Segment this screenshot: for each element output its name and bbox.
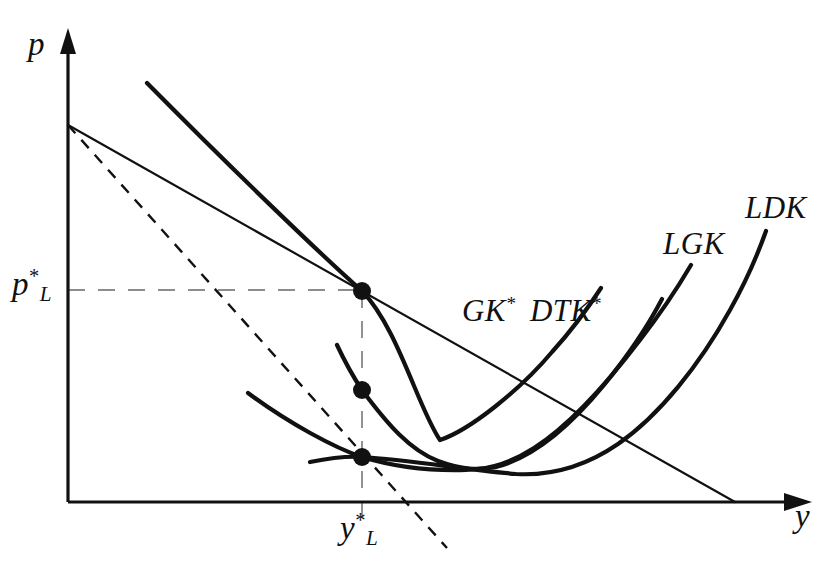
- equilibrium-points-group: [353, 282, 371, 466]
- curve-label-gk-star: GK*: [462, 295, 516, 326]
- quantity-equilibrium-label: y*L: [340, 512, 378, 545]
- price-axis-label: p: [28, 28, 45, 61]
- axes-group: [60, 28, 812, 511]
- price-axis-arrow-icon: [60, 28, 76, 54]
- quantity-axis-label: y: [795, 500, 810, 533]
- demand-equilibrium-point: [353, 282, 371, 300]
- diagram-svg: [0, 0, 835, 570]
- demand-curve: [68, 125, 735, 502]
- price-equilibrium-label: p*L: [12, 268, 51, 301]
- curve-label-dtk-star: DTK*: [530, 295, 602, 326]
- marginal-cost-point: [353, 381, 371, 399]
- gk-star-curve: [147, 83, 601, 440]
- economics-diagram-canvas: p y p*L y*L GK* DTK* LGK LDK: [0, 0, 835, 570]
- curve-label-ldk: LDK: [745, 192, 807, 223]
- curve-label-lgk: LGK: [663, 228, 725, 259]
- guide-lines: [68, 290, 362, 520]
- long-run-tangency-point: [353, 448, 371, 466]
- ldk-curve: [310, 231, 766, 474]
